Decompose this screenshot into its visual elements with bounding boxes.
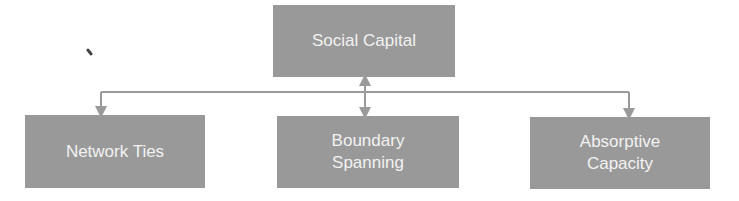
node-network-ties: Network Ties <box>25 115 205 188</box>
node-label: Social Capital <box>312 30 416 52</box>
node-absorptive-capacity: Absorptive Capacity <box>530 117 710 189</box>
node-label-line-1: Absorptive <box>580 131 660 153</box>
node-label-line-1: Boundary <box>332 130 405 152</box>
node-label-line-2: Capacity <box>580 153 660 175</box>
node-label: Network Ties <box>66 141 164 163</box>
node-label-line-2: Spanning <box>332 152 405 174</box>
node-social-capital: Social Capital <box>273 5 455 77</box>
node-boundary-spanning: Boundary Spanning <box>277 116 459 188</box>
